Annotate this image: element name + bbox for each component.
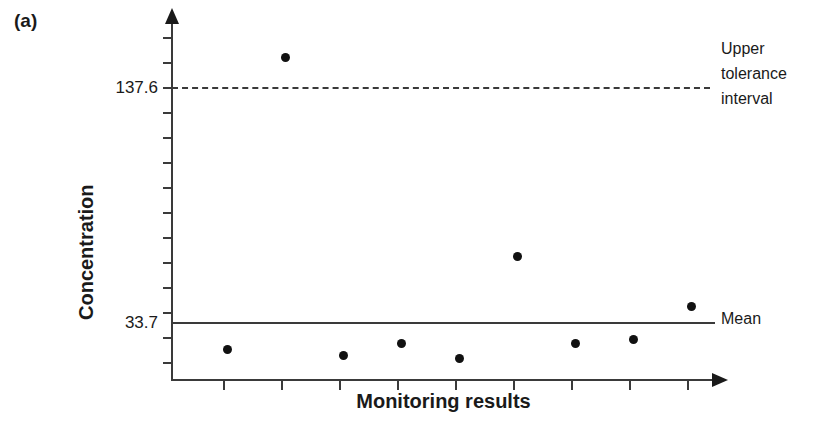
x-axis-tick (455, 381, 457, 390)
x-axis-tick (281, 381, 283, 390)
x-axis-tick (339, 381, 341, 390)
data-point (281, 53, 290, 62)
x-axis-tick (571, 381, 573, 390)
y-axis-tick (163, 37, 172, 39)
tolerance-annotation-line-2: tolerance (721, 61, 813, 86)
x-axis-arrowhead-icon (712, 373, 728, 387)
x-axis-tick (513, 381, 515, 390)
y-axis-tick (163, 362, 172, 364)
scatter-plot-figure: (a) 137.6 33.7 Concentration Monitoring … (0, 0, 815, 426)
x-axis-title: Monitoring results (172, 391, 715, 411)
x-axis-tick (687, 381, 689, 390)
y-axis-tick (163, 62, 172, 64)
mean-annotation: Mean (721, 311, 761, 327)
y-axis-tick (163, 237, 172, 239)
data-point (397, 339, 406, 348)
upper-tolerance-interval-annotation: Upper tolerance interval (721, 36, 813, 111)
x-axis-tick (223, 381, 225, 390)
y-axis-tick (163, 287, 172, 289)
y-axis-tick (163, 337, 172, 339)
data-point (513, 252, 522, 261)
x-axis-tick (629, 381, 631, 390)
y-axis-title: Concentration (76, 20, 96, 320)
y-axis-tick (163, 162, 172, 164)
y-axis-value-label-mean: 33.7 (55, 314, 158, 331)
y-axis-tick (163, 137, 172, 139)
data-point (571, 339, 580, 348)
y-axis-tick (163, 312, 172, 314)
mean-line (172, 322, 715, 324)
x-axis-line (171, 379, 714, 381)
x-axis-tick (397, 381, 399, 390)
y-axis-tick (163, 112, 172, 114)
panel-label: (a) (14, 11, 37, 30)
y-axis-tick (163, 262, 172, 264)
data-point (223, 345, 232, 354)
y-axis-tick (163, 212, 172, 214)
tolerance-annotation-line-3: interval (721, 86, 813, 111)
data-point (455, 354, 464, 363)
data-point (687, 302, 696, 311)
y-axis-tick (163, 187, 172, 189)
y-axis-arrowhead-icon (165, 8, 179, 24)
data-point (339, 351, 348, 360)
y-axis-tick (163, 87, 172, 89)
data-point (629, 335, 638, 344)
y-axis-value-label-tolerance: 137.6 (55, 79, 158, 96)
y-axis-line (171, 22, 173, 381)
tolerance-annotation-line-1: Upper (721, 36, 813, 61)
upper-tolerance-interval-line (172, 87, 710, 89)
